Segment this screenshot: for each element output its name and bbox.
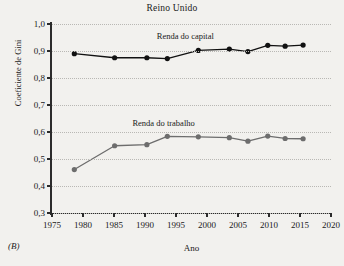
x-tick-label: 2015 xyxy=(291,220,309,230)
gridline-y xyxy=(52,78,331,79)
gridline-y xyxy=(52,24,331,25)
x-tick-mark xyxy=(144,213,145,217)
x-tick-mark xyxy=(299,213,300,217)
data-point-marker xyxy=(283,136,288,141)
y-tick-label: 0,9 xyxy=(34,46,45,56)
y-axis-label: Coeficiente de Gini xyxy=(13,8,23,138)
y-tick-label: 1,0 xyxy=(34,19,45,29)
gridline-y xyxy=(52,105,331,106)
x-axis-label: Ano xyxy=(52,243,331,253)
data-point-marker xyxy=(144,142,149,147)
x-tick-mark xyxy=(268,213,269,217)
y-tick-mark xyxy=(47,104,52,105)
y-tick-label: 0,5 xyxy=(34,154,45,164)
x-tick-label: 1975 xyxy=(43,220,61,230)
series-label: Renda do capital xyxy=(157,31,214,41)
gridline-y xyxy=(52,51,331,52)
data-point-marker xyxy=(227,135,232,140)
gridline-y xyxy=(52,132,331,133)
x-tick-label: 2000 xyxy=(198,220,216,230)
y-tick-label: 0,3 xyxy=(34,208,45,218)
series-line xyxy=(74,136,303,169)
x-tick-mark xyxy=(51,213,52,217)
x-tick-label: 2005 xyxy=(229,220,247,230)
data-point-marker xyxy=(72,167,77,172)
y-tick-label: 0,6 xyxy=(34,127,45,137)
x-tick-label: 1990 xyxy=(136,220,154,230)
x-tick-label: 1985 xyxy=(105,220,123,230)
data-point-marker xyxy=(112,55,117,60)
data-point-marker xyxy=(265,133,270,138)
chart-title: Reino Unido xyxy=(0,3,344,13)
y-tick-label: 0,4 xyxy=(34,181,45,191)
x-tick-label: 2020 xyxy=(322,220,340,230)
data-point-marker xyxy=(265,43,270,48)
y-tick-mark xyxy=(47,185,52,186)
gridline-y xyxy=(52,213,331,214)
data-point-marker xyxy=(283,44,288,49)
y-tick-label: 0,7 xyxy=(34,100,45,110)
y-tick-mark xyxy=(47,158,52,159)
data-point-marker xyxy=(144,55,149,60)
data-point-marker xyxy=(245,139,250,144)
y-tick-mark xyxy=(47,131,52,132)
data-point-marker xyxy=(165,134,170,139)
series-label: Renda do trabalho xyxy=(132,118,194,128)
data-point-marker xyxy=(112,143,117,148)
data-point-marker xyxy=(165,56,170,61)
data-point-marker xyxy=(196,134,201,139)
gridline-y xyxy=(52,186,331,187)
data-point-marker xyxy=(301,136,306,141)
x-tick-label: 1980 xyxy=(74,220,92,230)
y-tick-mark xyxy=(47,77,52,78)
y-tick-mark xyxy=(47,23,52,24)
chart-figure: Reino Unido Coeficiente de Gini 0,30,40,… xyxy=(0,0,344,266)
x-tick-mark xyxy=(82,213,83,217)
plot-area: 0,30,40,50,60,70,80,91,01975198019851990… xyxy=(52,24,331,213)
gridline-y xyxy=(52,159,331,160)
panel-tag: (B) xyxy=(8,241,20,251)
x-tick-mark xyxy=(206,213,207,217)
x-tick-mark xyxy=(175,213,176,217)
data-point-marker xyxy=(301,42,306,47)
x-tick-label: 2010 xyxy=(260,220,278,230)
x-tick-mark xyxy=(237,213,238,217)
y-tick-label: 0,8 xyxy=(34,73,45,83)
x-tick-mark xyxy=(330,213,331,217)
x-tick-mark xyxy=(113,213,114,217)
x-tick-label: 1995 xyxy=(167,220,185,230)
y-tick-mark xyxy=(47,50,52,51)
